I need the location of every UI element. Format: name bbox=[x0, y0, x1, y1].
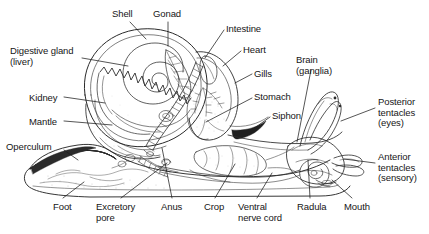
label-ventral-nerve-cord: Ventral nerve cord bbox=[238, 202, 282, 223]
leader-gills bbox=[235, 74, 252, 83]
excretory-pore-shape bbox=[162, 159, 171, 165]
label-mantle: Mantle bbox=[29, 117, 57, 128]
radula-coil bbox=[300, 159, 329, 187]
leader-lines-group bbox=[63, 22, 375, 198]
label-digestive-gland: Digestive gland (liver) bbox=[10, 46, 73, 67]
head-and-tentacles bbox=[286, 92, 363, 187]
label-anterior-tentacles: Anterior tentacles (sensory) bbox=[378, 152, 417, 184]
snail-anatomy-drawing bbox=[0, 0, 429, 234]
label-intestine: Intestine bbox=[226, 24, 261, 35]
snail-anatomy-figure: Digestive gland (liver)KidneyMantleOperc… bbox=[0, 0, 429, 234]
leader-foot bbox=[63, 182, 84, 198]
label-excretory-pore: Excretory pore bbox=[96, 202, 135, 223]
leader-anterior-tentacles bbox=[344, 159, 375, 163]
label-kidney: Kidney bbox=[29, 93, 57, 104]
label-crop: Crop bbox=[204, 202, 224, 213]
label-stomach: Stomach bbox=[254, 92, 291, 103]
label-heart: Heart bbox=[243, 45, 266, 56]
leader-excretory-pore bbox=[121, 163, 167, 198]
label-gonad: Gonad bbox=[153, 9, 181, 20]
label-mouth: Mouth bbox=[344, 202, 370, 213]
foot-outline bbox=[24, 144, 350, 197]
label-gills: Gills bbox=[254, 69, 272, 80]
leader-mouth bbox=[332, 180, 352, 198]
label-siphon: Siphon bbox=[272, 111, 301, 122]
leader-stomach bbox=[206, 98, 252, 122]
label-posterior-tentacles: Posterior tentacles (eyes) bbox=[378, 97, 415, 129]
leader-intestine bbox=[205, 30, 224, 58]
label-anus: Anus bbox=[161, 202, 182, 213]
siphon-shape bbox=[230, 117, 268, 139]
label-shell: Shell bbox=[112, 9, 133, 20]
leader-posterior-tentacles bbox=[341, 108, 375, 121]
shell-spiral bbox=[84, 29, 207, 150]
label-radula: Radula bbox=[297, 202, 327, 213]
label-operculum: Operculum bbox=[6, 142, 52, 153]
leader-heart bbox=[223, 51, 241, 66]
label-brain: Brain (ganglia) bbox=[296, 55, 332, 76]
label-foot: Foot bbox=[53, 202, 72, 213]
